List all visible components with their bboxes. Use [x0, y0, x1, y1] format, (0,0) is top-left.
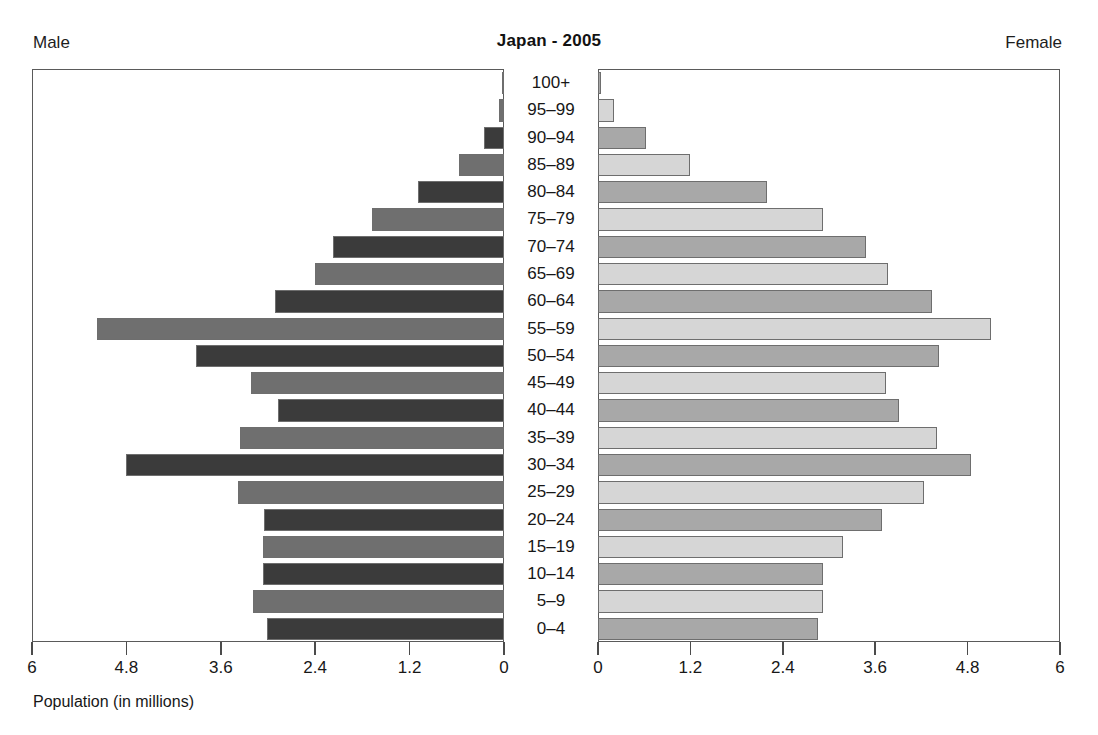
male-bar — [418, 181, 504, 203]
age-group-label: 45–49 — [504, 369, 598, 396]
male-bar-row — [33, 370, 503, 397]
axis-tick-label: 3.6 — [209, 658, 233, 678]
male-bar — [240, 427, 504, 449]
male-bar — [251, 372, 504, 394]
axis-tick — [874, 642, 876, 655]
female-bar — [598, 72, 601, 94]
age-group-label: 40–44 — [504, 396, 598, 423]
male-bar — [333, 236, 504, 258]
male-bar-row — [33, 97, 503, 124]
axis-tick-label: 6 — [27, 658, 36, 678]
male-bar — [275, 290, 505, 312]
male-bar — [264, 509, 504, 531]
female-bar-row — [599, 452, 1059, 479]
female-bar-row — [599, 370, 1059, 397]
age-group-label: 100+ — [504, 69, 598, 96]
age-group-label: 65–69 — [504, 260, 598, 287]
male-bar-row — [33, 206, 503, 233]
male-value-axis: 64.83.62.41.20 — [32, 642, 504, 688]
age-group-label: 25–29 — [504, 478, 598, 505]
axis-tick-label: 1.2 — [679, 658, 703, 678]
male-bar-row — [33, 316, 503, 343]
age-group-label: 95–99 — [504, 96, 598, 123]
female-bar — [598, 263, 888, 285]
female-bar — [598, 454, 971, 476]
age-group-axis: 100+95–9990–9485–8980–8475–7970–7465–696… — [504, 69, 598, 642]
male-bar-row — [33, 152, 503, 179]
age-group-label: 15–19 — [504, 533, 598, 560]
male-bar-row — [33, 588, 503, 615]
axis-tick — [314, 642, 316, 655]
female-bar-row — [599, 425, 1059, 452]
age-group-label: 20–24 — [504, 506, 598, 533]
male-bar — [372, 208, 504, 230]
age-group-label: 50–54 — [504, 342, 598, 369]
male-bar — [278, 399, 504, 421]
male-bar-row — [33, 70, 503, 97]
female-bar — [598, 372, 886, 394]
female-side-label: Female — [1005, 33, 1062, 53]
female-bar-row — [599, 343, 1059, 370]
male-bar — [267, 618, 504, 640]
male-bar-row — [33, 125, 503, 152]
age-group-label: 80–84 — [504, 178, 598, 205]
male-bar — [484, 127, 504, 149]
male-bar — [253, 590, 504, 612]
female-bar — [598, 236, 866, 258]
male-bar-row — [33, 452, 503, 479]
female-bar-row — [599, 70, 1059, 97]
age-group-label: 75–79 — [504, 205, 598, 232]
female-bar-row — [599, 261, 1059, 288]
male-bar — [315, 263, 504, 285]
axis-tick-label: 2.4 — [303, 658, 327, 678]
axis-tick — [1059, 642, 1061, 655]
female-bar-row — [599, 125, 1059, 152]
axis-tick-label: 4.8 — [115, 658, 139, 678]
female-bar — [598, 399, 899, 421]
female-bar — [598, 99, 614, 121]
age-group-label: 70–74 — [504, 233, 598, 260]
male-bar — [263, 563, 504, 585]
female-bar-row — [599, 234, 1059, 261]
female-value-axis: 01.22.43.64.86 — [598, 642, 1060, 688]
male-bar-row — [33, 234, 503, 261]
axis-tick — [220, 642, 222, 655]
age-group-label: 60–64 — [504, 287, 598, 314]
chart-title: Japan - 2005 — [0, 31, 1098, 51]
male-plot-area — [32, 69, 504, 642]
male-bar-row — [33, 343, 503, 370]
female-bar-row — [599, 397, 1059, 424]
female-plot-area — [598, 69, 1060, 642]
age-group-label: 85–89 — [504, 151, 598, 178]
male-bar-row — [33, 397, 503, 424]
male-bar — [126, 454, 504, 476]
axis-tick-label: 0 — [593, 658, 602, 678]
age-group-label: 0–4 — [504, 615, 598, 642]
male-bar-group — [33, 70, 503, 641]
axis-tick — [503, 642, 505, 655]
axis-tick — [126, 642, 128, 655]
female-bar — [598, 427, 937, 449]
axis-tick-label: 6 — [1055, 658, 1064, 678]
female-bar — [598, 618, 818, 640]
axis-caption: Population (in millions) — [33, 693, 194, 711]
female-bar — [598, 481, 924, 503]
axis-tick-label: 1.2 — [398, 658, 422, 678]
male-bar-row — [33, 425, 503, 452]
axis-tick-label: 4.8 — [956, 658, 980, 678]
male-bar — [97, 318, 504, 340]
female-bar — [598, 290, 932, 312]
female-bar — [598, 181, 767, 203]
age-group-label: 30–34 — [504, 451, 598, 478]
male-bar — [263, 536, 504, 558]
axis-tick — [597, 642, 599, 655]
female-bar — [598, 208, 823, 230]
female-bar-row — [599, 534, 1059, 561]
female-bar-row — [599, 588, 1059, 615]
axis-tick — [31, 642, 33, 655]
female-bar-row — [599, 616, 1059, 643]
female-bar-row — [599, 561, 1059, 588]
male-bar-row — [33, 507, 503, 534]
female-bar-row — [599, 206, 1059, 233]
male-bar — [196, 345, 504, 367]
